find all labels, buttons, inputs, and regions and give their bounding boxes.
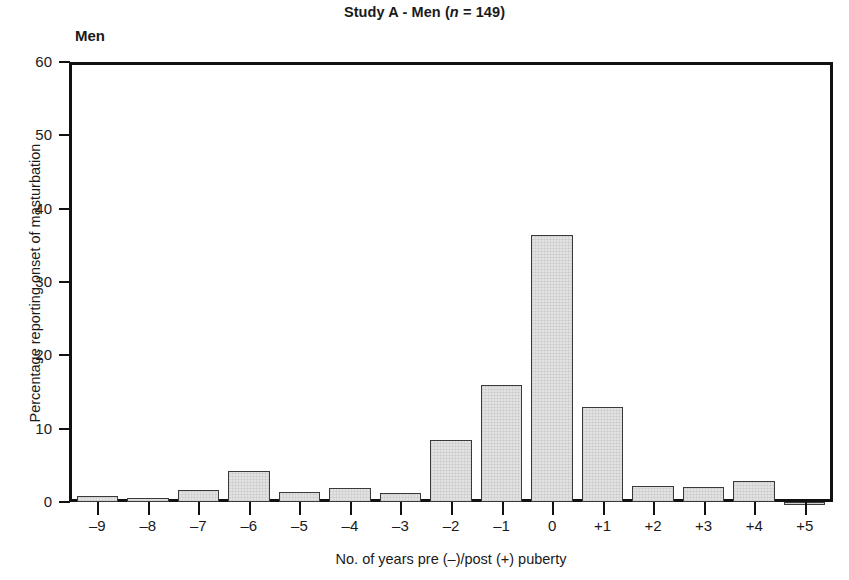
x-axis-tick [552,502,554,515]
bar-slot [173,62,224,502]
bar[interactable] [531,235,572,502]
x-axis-tick [198,502,200,515]
y-axis-tick-label: 30 [0,274,52,289]
plot-area [72,62,830,502]
y-axis-tick [59,61,70,63]
y-axis-tick-label: 20 [0,347,52,362]
bar-slot [325,62,376,502]
bar-slot [779,62,830,502]
x-axis-tick [148,502,150,515]
y-axis-tick-label: 0 [0,494,52,509]
title-suffix: = 149) [459,4,505,20]
bar[interactable] [178,490,219,502]
bar[interactable] [632,486,673,502]
page-title: Study A - Men (n = 149) [0,4,849,20]
y-axis-tick [59,281,70,283]
bar-slot [527,62,578,502]
bar[interactable] [683,487,724,502]
bar-slot [274,62,325,502]
y-axis-tick [59,354,70,356]
bar[interactable] [329,488,370,502]
y-axis-tick-label: 60 [0,54,52,69]
bar[interactable] [228,471,269,502]
x-axis-title: No. of years pre (–)/post (+) puberty [69,551,833,567]
bar[interactable] [279,492,320,502]
bar[interactable] [481,385,522,502]
y-axis-tick-label: 40 [0,201,52,216]
x-axis-tick [451,502,453,515]
bar-slot [224,62,275,502]
title-italic-n: n [450,4,459,20]
x-axis-tick [97,502,99,515]
bar-slot [577,62,628,502]
x-axis-tick [249,502,251,515]
y-axis-tick [59,428,70,430]
y-axis-tick [59,208,70,210]
panel-label: Men [75,27,105,44]
y-axis-tick-label: 10 [0,421,52,436]
bar[interactable] [582,407,623,502]
x-axis-tick [502,502,504,515]
bar-slot [426,62,477,502]
y-axis-tick [59,501,70,503]
bar-slot [729,62,780,502]
x-axis-tick [805,502,807,515]
bar-slot [375,62,426,502]
x-axis-tick [704,502,706,515]
bar[interactable] [733,481,774,502]
x-axis-tick [754,502,756,515]
x-axis-tick [299,502,301,515]
x-axis-tick-label: +5 [775,518,835,533]
bar[interactable] [430,440,471,502]
x-axis-tick [400,502,402,515]
x-axis-tick [603,502,605,515]
bar-slot [628,62,679,502]
bar-slot [476,62,527,502]
bar-slot [678,62,729,502]
bar-slot [72,62,123,502]
bar-slot [123,62,174,502]
title-prefix: Study A - Men ( [344,4,450,20]
x-axis-tick [350,502,352,515]
bar[interactable] [380,493,421,502]
y-axis-tick-label: 50 [0,127,52,142]
y-axis-tick [59,134,70,136]
x-axis-tick [653,502,655,515]
